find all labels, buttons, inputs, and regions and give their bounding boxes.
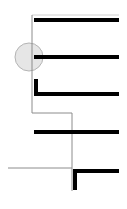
background	[0, 0, 127, 209]
branch-diagram	[0, 0, 127, 209]
